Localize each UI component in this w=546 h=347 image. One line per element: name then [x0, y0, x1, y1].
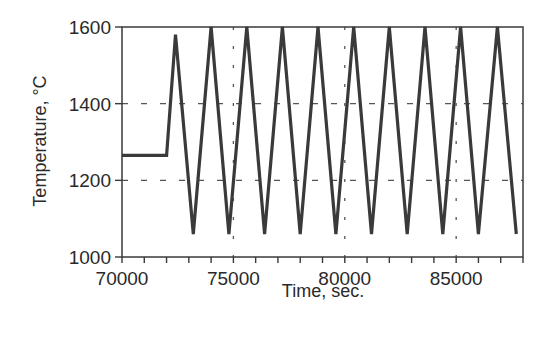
x-tick-label: 85000 — [430, 268, 483, 289]
x-tick-label: 75000 — [207, 268, 260, 289]
temperature-line — [122, 27, 516, 234]
y-tick-label: 1400 — [69, 94, 111, 115]
data-series — [122, 27, 516, 234]
y-tick-label: 1200 — [69, 170, 111, 191]
x-tick-label: 70000 — [96, 268, 149, 289]
temperature-chart: 1000120014001600 70000750008000085000 Ti… — [0, 0, 546, 347]
y-tick-label: 1600 — [69, 17, 111, 38]
x-axis-title: Time, sec. — [282, 281, 364, 301]
y-tick-labels: 1000120014001600 — [69, 17, 111, 268]
axis-ticks — [115, 27, 523, 263]
y-axis-title: Temperature, °C — [30, 75, 50, 206]
y-tick-label: 1000 — [69, 247, 111, 268]
